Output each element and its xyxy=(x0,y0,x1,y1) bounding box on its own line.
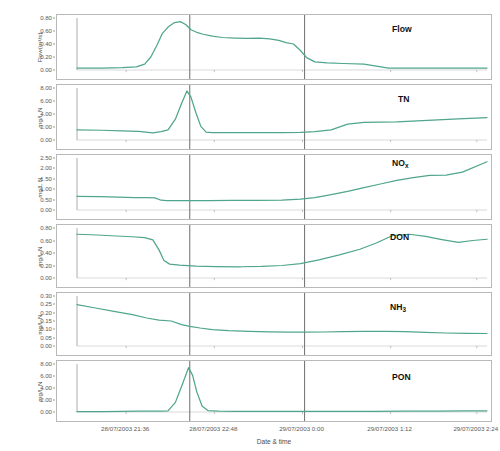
y-axis-label-text: mg/L N xyxy=(35,177,42,197)
y-tick-mark xyxy=(53,168,56,169)
panel-nh3: mg/L N0.000.050.100.150.200.250.30 xyxy=(56,292,492,356)
y-axis-label-text: mg/L N xyxy=(35,314,42,334)
x-axis-title: Date & time xyxy=(56,438,492,445)
plot-area-pon: mg/L N0.002.004.006.008.00 xyxy=(57,361,491,421)
y-tick-label: 0.60 xyxy=(40,28,52,34)
y-tick-label: 6.00 xyxy=(40,98,52,104)
panel-flow: Flow(m³/s)0.000.200.400.600.80 xyxy=(56,14,492,80)
y-axis-label-text: mg/L N xyxy=(35,381,42,401)
y-tick-label: 8.00 xyxy=(40,361,52,367)
y-tick-label: 0.40 xyxy=(40,250,52,256)
data-series-line xyxy=(77,305,487,334)
y-tick-mark xyxy=(53,101,56,102)
y-tick-mark xyxy=(53,312,56,313)
series-plot-don xyxy=(57,225,491,287)
y-tick-label: 1.50 xyxy=(40,176,52,182)
series-title-subscript: 3 xyxy=(402,306,406,313)
y-tick-label: 2.00 xyxy=(40,397,52,403)
series-plot-tn xyxy=(57,85,491,149)
y-tick-mark xyxy=(53,329,56,330)
y-tick-mark xyxy=(53,199,56,200)
y-tick-mark xyxy=(53,44,56,45)
y-tick-label: 0.40 xyxy=(40,41,52,47)
y-axis-label-text: mg/L N xyxy=(35,246,42,266)
plot-area-nox: mg/L N0.000.501.001.502.002.50 xyxy=(57,155,491,219)
y-tick-label: 0.00 xyxy=(40,137,52,143)
series-title-text: NO xyxy=(392,158,405,168)
series-title-don: DON xyxy=(390,232,409,242)
series-title-nox: NOx xyxy=(392,158,408,168)
y-tick-mark xyxy=(53,70,56,71)
y-tick-mark xyxy=(53,376,56,377)
y-tick-mark xyxy=(53,88,56,89)
y-tick-mark xyxy=(53,240,56,241)
plot-area-don: mg/L N0.000.200.400.600.80 xyxy=(57,225,491,287)
panel-don: mg/L N0.000.200.400.600.80 xyxy=(56,224,492,288)
series-title-nh3: NH3 xyxy=(390,302,406,312)
y-tick-label: 0.20 xyxy=(40,310,52,316)
y-tick-mark xyxy=(53,127,56,128)
y-tick-label: 2.00 xyxy=(40,165,52,171)
y-axis-ticks-don: 0.000.200.400.600.80 xyxy=(21,225,55,287)
y-tick-label: 0.00 xyxy=(40,343,52,349)
y-tick-mark xyxy=(53,140,56,141)
data-series-line xyxy=(77,368,487,412)
series-plot-nox xyxy=(57,155,491,219)
y-tick-label: 6.00 xyxy=(40,373,52,379)
y-axis-ticks-tn: 0.002.004.006.008.00 xyxy=(21,85,55,149)
y-tick-mark xyxy=(53,364,56,365)
y-tick-mark xyxy=(53,304,56,305)
data-series-line xyxy=(77,91,487,133)
y-tick-mark xyxy=(53,228,56,229)
y-tick-mark xyxy=(53,278,56,279)
y-tick-mark xyxy=(53,400,56,401)
y-tick-label: 0.20 xyxy=(40,54,52,60)
y-tick-mark xyxy=(53,337,56,338)
y-tick-mark xyxy=(53,18,56,19)
y-tick-label: 0.60 xyxy=(40,237,52,243)
y-tick-mark xyxy=(53,388,56,389)
y-tick-mark xyxy=(53,265,56,266)
x-tick-label: 29/07/2003 0:00 xyxy=(279,425,324,432)
plot-area-nh3: mg/L N0.000.050.100.150.200.250.30 xyxy=(57,293,491,355)
y-tick-mark xyxy=(53,412,56,413)
y-tick-mark xyxy=(53,346,56,347)
y-tick-label: 2.00 xyxy=(40,124,52,130)
series-plot-pon xyxy=(57,361,491,421)
y-axis-label-text: mg/L N xyxy=(35,107,42,127)
y-tick-label: 0.80 xyxy=(40,15,52,21)
y-axis-label-text: Flow(m³/s) xyxy=(36,32,43,62)
panel-tn: mg/L N0.002.004.006.008.00 xyxy=(56,84,492,150)
multi-panel-timeseries-figure: Flow(m³/s)0.000.200.400.600.80Flowmg/L N… xyxy=(0,0,500,451)
y-tick-mark xyxy=(53,178,56,179)
y-tick-label: 0.80 xyxy=(40,225,52,231)
x-tick-label: 28/07/2003 22:48 xyxy=(189,425,237,432)
y-tick-mark xyxy=(53,189,56,190)
series-title-text: NH xyxy=(390,302,402,312)
y-tick-mark xyxy=(53,158,56,159)
x-tick-label: 29/07/2003 2:24 xyxy=(453,425,498,432)
y-tick-mark xyxy=(53,114,56,115)
y-tick-label: 4.00 xyxy=(40,385,52,391)
series-title-text: DON xyxy=(390,232,409,242)
series-title-text: TN xyxy=(398,94,409,104)
panel-nox: mg/L N0.000.501.001.502.002.50 xyxy=(56,154,492,220)
y-tick-mark xyxy=(53,321,56,322)
y-tick-label: 0.00 xyxy=(40,409,52,415)
y-tick-label: 0.15 xyxy=(40,318,52,324)
y-tick-label: 0.00 xyxy=(40,67,52,73)
series-plot-nh3 xyxy=(57,293,491,355)
plot-area-flow: Flow(m³/s)0.000.200.400.600.80 xyxy=(57,15,491,79)
series-title-subscript: x xyxy=(405,162,409,169)
series-title-text: Flow xyxy=(392,24,412,34)
data-series-line xyxy=(77,234,487,267)
y-tick-label: 0.00 xyxy=(40,207,52,213)
series-title-pon: PON xyxy=(392,372,411,382)
series-title-tn: TN xyxy=(398,94,409,104)
y-tick-mark xyxy=(53,253,56,254)
series-plot-flow xyxy=(57,15,491,79)
y-tick-label: 1.00 xyxy=(40,186,52,192)
x-axis-tick-labels: 28/07/2003 21:3628/07/2003 22:4829/07/20… xyxy=(56,425,492,437)
y-axis-ticks-nox: 0.000.501.001.502.002.50 xyxy=(21,155,55,219)
x-tick-label: 29/07/2003 1:12 xyxy=(367,425,412,432)
